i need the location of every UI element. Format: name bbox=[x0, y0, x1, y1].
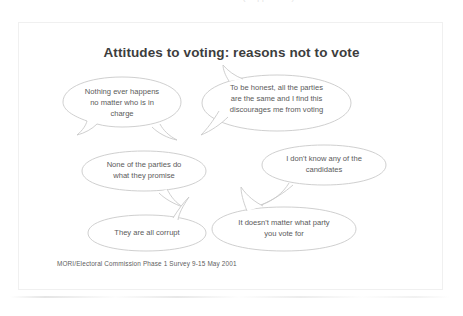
source-citation: MORI/Electoral Commission Phase 1 Survey… bbox=[57, 260, 237, 267]
page-title: Attitudes to voting: reasons not to vote bbox=[19, 45, 444, 60]
speech-bubble-text: I don't know any of the candidates bbox=[259, 143, 389, 185]
speech-bubble-doesnt-matter-what-party: It doesn't matter what party you vote fo… bbox=[209, 205, 359, 251]
speech-bubble-text: To be honest, all the parties are the sa… bbox=[199, 67, 354, 125]
slide-page: Attitudes to voting: reasons not to vote… bbox=[18, 22, 443, 290]
speech-bubble-none-keep-promises: None of the parties do what they promise bbox=[79, 149, 209, 191]
speech-bubble-text: Nothing ever happens no matter who is in… bbox=[59, 75, 185, 129]
speech-bubble-text: It doesn't matter what party you vote fo… bbox=[209, 205, 359, 251]
scan-top-cropped-text: reasons not to vote (cropped line) bbox=[0, 0, 463, 12]
speech-bubble-nothing-ever-happens: Nothing ever happens no matter who is in… bbox=[59, 75, 185, 129]
speech-bubble-text: None of the parties do what they promise bbox=[79, 149, 209, 191]
speech-bubble-dont-know-candidates: I don't know any of the candidates bbox=[259, 143, 389, 185]
scan-bottom-artifact bbox=[10, 296, 450, 298]
scan-top-cropped-text-label: reasons not to vote (cropped line) bbox=[0, 0, 463, 2]
speech-bubble-all-corrupt: They are all corrupt bbox=[85, 213, 209, 251]
speech-bubble-text: They are all corrupt bbox=[85, 213, 209, 251]
speech-bubble-parties-all-the-same: To be honest, all the parties are the sa… bbox=[199, 67, 354, 125]
